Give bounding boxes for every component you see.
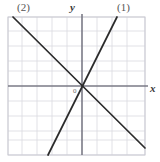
curve-label-1: (1): [117, 2, 130, 13]
origin-label: 0: [73, 88, 77, 95]
curve-label-2: (2): [17, 2, 30, 13]
x-axis-label: x: [150, 83, 156, 94]
graph-canvas: [0, 0, 160, 162]
line-2: [13, 17, 145, 148]
y-axis-label: y: [70, 2, 75, 13]
coordinate-plane-figure: (2) (1) y x 0: [0, 0, 160, 162]
